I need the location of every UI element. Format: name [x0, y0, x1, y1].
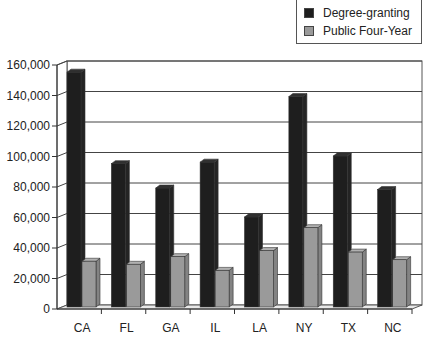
bar-side	[140, 261, 144, 307]
x-tick-label: IL	[210, 321, 220, 335]
bar-public-four-year-il	[215, 270, 229, 307]
bar-degree-granting-la	[245, 217, 259, 307]
bar-public-four-year-ca	[82, 261, 96, 307]
x-tick-label: FL	[120, 321, 134, 335]
bar-public-four-year-la	[260, 251, 274, 307]
legend-item-public-four-year: Public Four-Year	[304, 24, 412, 38]
bar-degree-granting-ny	[289, 97, 303, 307]
bar-degree-granting-ga	[156, 188, 170, 307]
bar-side	[274, 248, 278, 307]
bar-public-four-year-fl	[126, 264, 140, 307]
bar-public-four-year-ny	[304, 228, 318, 307]
legend-swatch-dark-icon	[304, 8, 314, 18]
legend-swatch-gray-icon	[304, 26, 314, 36]
bar-degree-granting-fl	[111, 164, 125, 307]
bar-degree-granting-ca	[67, 72, 81, 307]
bar-side	[362, 249, 366, 307]
bar-public-four-year-tx	[348, 252, 362, 307]
legend-item-degree-granting: Degree-granting	[304, 6, 410, 20]
y-tick-label: 80,000	[13, 180, 50, 194]
bar-degree-granting-tx	[333, 156, 347, 307]
y-tick-label: 20,000	[13, 272, 50, 286]
chart-plot-area: 020,00040,00060,00080,000100,000120,0001…	[0, 0, 428, 344]
bar-chart: 020,00040,00060,00080,000100,000120,0001…	[0, 0, 428, 344]
y-tick-label: 160,000	[7, 58, 51, 72]
chart-legend: Degree-granting Public Four-Year	[296, 0, 422, 44]
bar-degree-granting-nc	[378, 190, 392, 307]
y-tick-label: 120,000	[7, 119, 51, 133]
x-tick-label: LA	[252, 321, 267, 335]
y-tick-label: 100,000	[7, 150, 51, 164]
y-tick-label: 140,000	[7, 89, 51, 103]
bar-side	[96, 258, 100, 307]
legend-label: Public Four-Year	[323, 24, 412, 38]
bar-degree-granting-il	[200, 162, 214, 307]
x-tick-label: NC	[384, 321, 402, 335]
bar-side	[407, 257, 411, 307]
y-tick-label: 40,000	[13, 241, 50, 255]
y-tick-label: 60,000	[13, 211, 50, 225]
x-tick-label: GA	[162, 321, 179, 335]
y-tick-label: 0	[43, 302, 50, 316]
bar-side	[185, 254, 189, 307]
bar-public-four-year-ga	[171, 257, 185, 307]
bar-public-four-year-nc	[393, 260, 407, 307]
x-tick-label: CA	[74, 321, 91, 335]
legend-label: Degree-granting	[323, 6, 410, 20]
bar-side	[229, 267, 233, 307]
bar-side	[318, 225, 322, 307]
x-tick-label: TX	[341, 321, 356, 335]
x-tick-label: NY	[296, 321, 313, 335]
